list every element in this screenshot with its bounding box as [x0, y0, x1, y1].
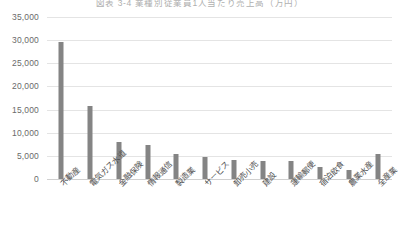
bar-slot: [162, 17, 191, 179]
y-axis-tick-label: 20,000: [0, 82, 39, 91]
bar-slot: [248, 17, 277, 179]
bar-slot: [76, 17, 105, 179]
y-axis-tick-label: 30,000: [0, 36, 39, 45]
y-axis-tick-label: 10,000: [0, 129, 39, 138]
bar-slot: [133, 17, 162, 179]
plot-area: 35,00030,00025,00020,00015,00010,0005,00…: [47, 17, 392, 179]
y-axis-tick-label: 0: [0, 175, 39, 184]
bar[interactable]: [375, 154, 380, 179]
bar-slot: [306, 17, 335, 179]
bar-slot: [191, 17, 220, 179]
bar-slot: [363, 17, 392, 179]
x-axis-category-labels: 不動産電気ガス水道金融保険情報通信製造業サービス卸売小売建設運輸郵便宿泊飲食農業…: [47, 182, 392, 241]
chart-title: 図表 3-4 業種別従業員1人当たり売上高（万円）: [0, 0, 399, 7]
bar[interactable]: [145, 145, 150, 179]
y-axis-tick-label: 35,000: [0, 13, 39, 22]
bar-slot: [220, 17, 249, 179]
bar[interactable]: [260, 161, 265, 179]
bar-chart: 図表 3-4 業種別従業員1人当たり売上高（万円） 35,00030,00025…: [0, 0, 399, 241]
bars-group: [47, 17, 392, 179]
bar-slot: [47, 17, 76, 179]
bar[interactable]: [59, 42, 64, 179]
bar[interactable]: [203, 157, 208, 179]
bar-slot: [335, 17, 364, 179]
bar[interactable]: [174, 154, 179, 179]
bar[interactable]: [231, 160, 236, 179]
y-axis-tick-label: 25,000: [0, 59, 39, 68]
y-axis-tick-label: 5,000: [0, 152, 39, 161]
y-axis-tick-label: 15,000: [0, 106, 39, 115]
bar[interactable]: [88, 106, 93, 179]
bar-slot: [277, 17, 306, 179]
